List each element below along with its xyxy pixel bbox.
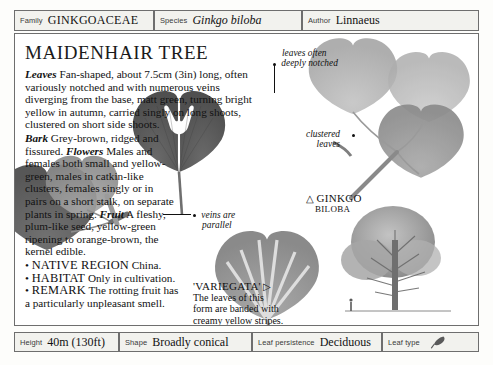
fact-remark-head: REMARK: [32, 283, 86, 297]
field-author-value: Linnaeus: [336, 13, 380, 28]
field-leaf-persistence-value: Deciduous: [320, 335, 371, 350]
fact-bullet: •: [25, 259, 29, 271]
annotation-notched-line1: leaves often: [282, 48, 338, 58]
fact-list: • NATIVE REGION China. • HABITAT Only in…: [25, 259, 185, 309]
caption-ginkgo-biloba: △ GINKGO BILOBA: [306, 193, 362, 215]
annotation-clustered-leaves: clustered leaves: [306, 129, 340, 150]
caption-ginkgo-line1: GINKGO: [317, 192, 362, 204]
caption-ginkgo-line2: BILOBA: [315, 204, 362, 215]
field-author-label: Author: [308, 16, 331, 25]
annotation-veins-line1: veins are: [201, 210, 235, 220]
caption-variegata-line3: creamy yellow stripes.: [193, 315, 283, 326]
fact-bullet: •: [25, 284, 29, 296]
annotation-deeply-notched: leaves often deeply notched: [273, 48, 338, 69]
annotation-veins-parallel: veins are parallel: [193, 210, 235, 231]
description-paragraph-wide: Leaves Fan-shaped, about 7.5cm (3in) lon…: [25, 68, 257, 131]
leader-line-notched: [274, 65, 275, 93]
scale-figure-icon: [349, 298, 352, 311]
field-leaf-type-label: Leaf type: [388, 338, 420, 347]
field-family-label: Family: [20, 16, 43, 25]
annotation-notched-line2: deeply notched: [281, 58, 337, 68]
caption-variegata: 'VARIEGATA' ▷ The leaves of this form ar…: [193, 281, 283, 326]
plant-reference-page: Family GINKGOACEAE Species Ginkgo biloba…: [0, 0, 493, 365]
annotation-clustered-line1: clustered: [306, 129, 340, 139]
field-leaf-type: Leaf type: [382, 332, 479, 352]
field-shape-value: Broadly conical: [152, 335, 228, 350]
description-paragraph-narrow: Bark Grey-brown, ridged and fissured. Fl…: [25, 132, 177, 258]
field-leaf-persistence: Leaf persistence Deciduous: [252, 332, 382, 352]
leader-dot-clustered-icon: [352, 134, 355, 137]
desc-key-fruit: Fruit: [100, 208, 124, 220]
caption-variegata-line2: form are banded with: [193, 303, 283, 314]
annotation-clustered-line2: leaves: [306, 139, 340, 149]
field-author: Author Linnaeus: [302, 10, 479, 31]
desc-text-leaves: Fan-shaped, about 7.5cm (3in) long, ofte…: [25, 68, 252, 130]
caption-variegata-title: 'VARIEGATA': [193, 280, 261, 292]
field-family-value: GINKGOACEAE: [48, 13, 139, 28]
desc-key-leaves: Leaves: [25, 68, 57, 80]
annotation-veins-line2: parallel: [202, 220, 235, 230]
leader-line-veins: [163, 214, 191, 215]
fact-bullet: •: [25, 272, 29, 284]
field-height: Height 40m (130ft): [14, 332, 119, 352]
field-shape: Shape Broadly conical: [119, 332, 252, 352]
field-shape-label: Shape: [125, 338, 147, 347]
main-plate: MAIDENHAIR TREE Leaves Fan-shaped, about…: [14, 33, 479, 326]
desc-key-flowers: Flowers: [66, 145, 103, 157]
field-family: Family GINKGOACEAE: [14, 10, 154, 31]
field-leaf-persistence-label: Leaf persistence: [258, 338, 315, 347]
field-species: Species Ginkgo biloba: [154, 10, 302, 31]
field-height-value: 40m (130ft): [47, 335, 105, 350]
field-species-value: Ginkgo biloba: [192, 13, 261, 28]
caption-variegata-line1: The leaves of this: [193, 292, 283, 303]
desc-key-bark: Bark: [25, 132, 48, 144]
fact-habitat-text: Only in cultivation.: [85, 272, 175, 284]
triangle-right-marker-icon: ▷: [263, 281, 271, 292]
fact-native-region-text: China.: [129, 259, 161, 271]
leaf-glyph-icon: [429, 335, 449, 349]
page-title: MAIDENHAIR TREE: [25, 42, 208, 64]
tree-silhouette-illustration: [341, 206, 451, 311]
leader-dot-veins-icon: [193, 214, 196, 217]
triangle-marker-icon: △: [306, 193, 314, 204]
field-species-label: Species: [160, 16, 187, 25]
fact-remark: • REMARK The rotting fruit has a particu…: [25, 284, 185, 309]
field-height-label: Height: [20, 338, 42, 347]
